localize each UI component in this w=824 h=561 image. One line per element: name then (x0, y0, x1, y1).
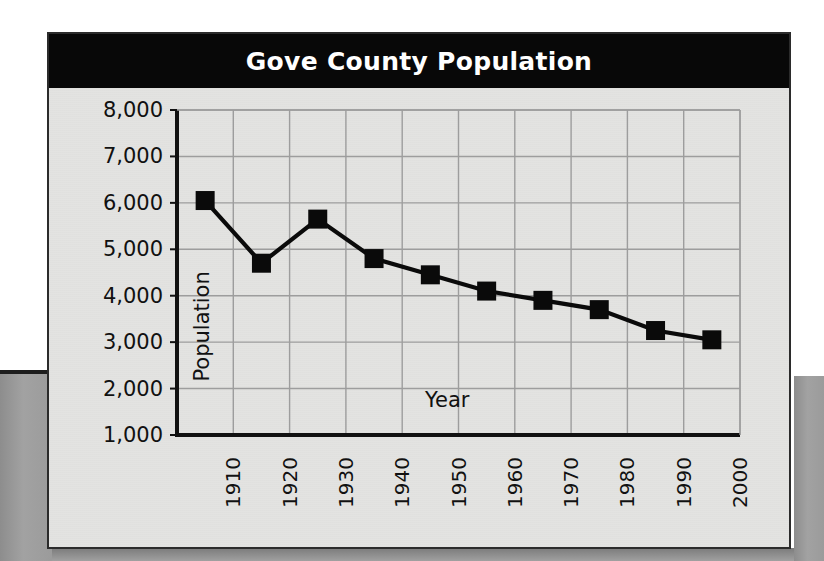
x-tick-label: 1940 (390, 457, 414, 508)
x-tick-label: 1980 (615, 457, 639, 508)
x-tick-label: 1960 (503, 457, 527, 508)
data-point-marker (252, 254, 271, 273)
x-axis-tick-labels: 1910192019301940195019601970198019902000 (221, 457, 752, 508)
data-point-marker (477, 282, 496, 301)
data-point-marker (590, 300, 609, 319)
data-point-marker (646, 321, 665, 340)
data-point-marker (308, 210, 327, 229)
data-point-marker (196, 191, 215, 210)
chart-title-banner: Gove County Population (49, 34, 789, 88)
x-tick-label: 1910 (221, 457, 245, 508)
y-tick-label: 5,000 (103, 237, 163, 261)
x-tick-label: 2000 (728, 457, 752, 508)
background-band-left (0, 370, 52, 561)
chart-title: Gove County Population (246, 47, 592, 76)
y-tick-label: 7,000 (103, 144, 163, 168)
y-tick-label: 1,000 (103, 423, 163, 447)
x-tick-label: 1970 (559, 457, 583, 508)
data-point-marker (702, 330, 721, 349)
x-axis-title: Year (424, 388, 470, 412)
population-line-chart: 8,0007,0006,0005,0004,0003,0002,0001,000… (49, 88, 791, 549)
x-tick-label: 1920 (278, 457, 302, 508)
x-tick-label: 1950 (447, 457, 471, 508)
x-tick-label: 1990 (672, 457, 696, 508)
y-axis-tick-labels: 8,0007,0006,0005,0004,0003,0002,0001,000 (103, 98, 177, 447)
data-point-marker (421, 265, 440, 284)
data-point-marker (365, 249, 384, 268)
x-tick-label: 1930 (334, 457, 358, 508)
plot-region: 8,0007,0006,0005,0004,0003,0002,0001,000… (49, 88, 789, 549)
y-tick-label: 2,000 (103, 377, 163, 401)
y-tick-label: 8,000 (103, 98, 163, 122)
y-tick-label: 3,000 (103, 330, 163, 354)
y-axis-title: Population (190, 271, 214, 381)
y-tick-label: 4,000 (103, 284, 163, 308)
y-tick-label: 6,000 (103, 191, 163, 215)
background-band-bottom (52, 548, 794, 561)
background-band-right (794, 376, 824, 561)
data-point-marker (533, 291, 552, 310)
chart-card: Gove County Population 8,0007,0006,0005,… (47, 32, 791, 549)
